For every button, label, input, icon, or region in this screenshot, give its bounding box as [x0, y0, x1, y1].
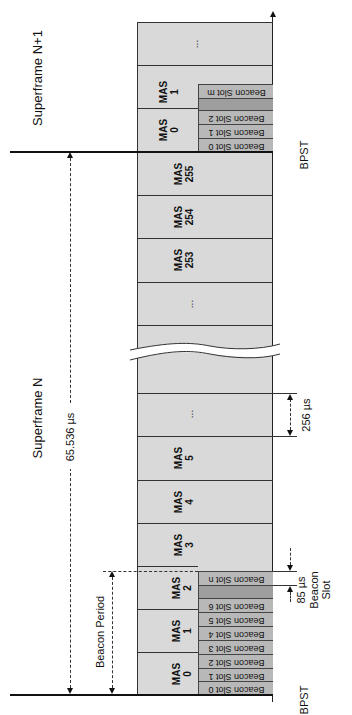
mas-label: MAS 4: [173, 487, 197, 517]
beacon-slot: Beacon Slot m: [198, 84, 273, 98]
mas-label: MAS 2: [171, 573, 195, 603]
beacon-slot: Beacon Slot 2: [198, 110, 273, 124]
beacon-slot: Beacon Slot 0: [198, 681, 273, 695]
mas-label: MAS 1: [158, 77, 182, 107]
superframe-duration-line: [70, 158, 71, 408]
arrow-down-icon: [287, 565, 293, 571]
superframe-start-line: [10, 694, 273, 696]
beacon-slot-gap: [198, 585, 273, 598]
bpst-label-top: BPST: [297, 135, 311, 175]
arrow-up-icon: [109, 571, 115, 577]
row-divider: [137, 282, 273, 283]
row-divider: [137, 325, 273, 326]
superframe-duration-line: [70, 468, 71, 688]
beacon-slot: Beacon Slot 0: [198, 138, 273, 152]
beacon-slot: Beacon Slot 4: [198, 626, 273, 640]
mas-duration-label: 256 µs: [299, 393, 313, 437]
beacon-slot-duration-label: 85 µs Beacon Slot: [295, 566, 333, 614]
mas-label: MAS 254: [173, 202, 197, 232]
mas-label: MAS 0: [171, 659, 195, 689]
mas-duration-line: [290, 399, 291, 430]
row-divider: [137, 108, 198, 109]
beacon-slot: Beacon Slot 3: [198, 640, 273, 654]
beacon-slot: Beacon Slot 1: [198, 668, 273, 682]
mas-label: MAS 253: [173, 245, 197, 275]
timeline-break-icon: [130, 340, 280, 368]
row-divider: [137, 652, 198, 653]
superframe-duration-label: 65.536 µs: [63, 405, 77, 469]
row-divider: [137, 480, 273, 481]
row-divider: [137, 523, 273, 524]
mas-label: MAS 1: [171, 616, 195, 646]
mas-ellipsis: ...: [183, 284, 197, 324]
beacon-slot: Beacon Slot 5: [198, 612, 273, 626]
superframe-n-label: Superframe N: [30, 370, 46, 466]
superframe-n-plus-1-label: Superframe N+1: [30, 23, 46, 133]
beacon-slot-dimension-line: [273, 571, 297, 572]
row-divider: [137, 195, 273, 196]
arrow-up-icon: [67, 152, 73, 158]
mas-label: MAS 5: [173, 443, 197, 473]
beacon-period-line: [112, 577, 113, 688]
mas-label: MAS 255: [173, 159, 197, 189]
beacon-period-end-line: [103, 571, 198, 572]
beacon-slot: Beacon Slot 6: [198, 598, 273, 612]
mas-ellipsis: ...: [183, 394, 197, 434]
mas-label: MAS 0: [158, 115, 182, 145]
superframe-boundary-line: [10, 151, 273, 153]
arrow-up-icon: [287, 394, 293, 400]
beacon-slot: Beacon Slot 1: [198, 124, 273, 138]
arrow-down-icon: [67, 688, 73, 694]
bpst-label-bottom: BPST: [297, 680, 311, 715]
beacon-slot-dimension-tick: [290, 548, 291, 565]
mas-label: MAS 3: [173, 530, 197, 560]
beacon-slot-dimension-tick: [290, 592, 291, 602]
row-divider: [137, 609, 198, 610]
row-divider: [137, 566, 198, 567]
arrow-down-icon: [287, 430, 293, 436]
row-divider: [137, 393, 297, 394]
row-divider: [137, 436, 297, 437]
beacon-slot-gap: [198, 98, 273, 110]
beacon-period-label: Beacon Period: [93, 592, 107, 672]
row-divider: [137, 65, 273, 66]
row-divider: [137, 238, 273, 239]
beacon-slot-dimension-line: [273, 585, 297, 586]
arrow-down-icon: [109, 688, 115, 694]
mas-ellipsis: ...: [188, 24, 202, 64]
time-axis-arrow-icon: [270, 11, 276, 17]
beacon-slot: Beacon Slot n: [198, 571, 273, 585]
beacon-slot: Beacon Slot 2: [198, 654, 273, 668]
row-divider: [137, 22, 273, 23]
